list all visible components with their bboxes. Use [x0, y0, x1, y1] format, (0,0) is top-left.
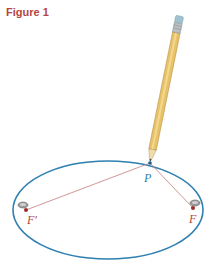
- label-focus-left: F′: [26, 213, 37, 227]
- ellipse-curve: [13, 161, 203, 259]
- string-to-right-focus: [150, 163, 193, 208]
- ellipse-diagram: P F′ F: [0, 0, 217, 272]
- label-point-p: P: [143, 171, 152, 185]
- string-to-left-focus: [26, 163, 150, 210]
- left-pin-icon: [18, 202, 28, 212]
- label-focus-right: F: [188, 212, 197, 226]
- pencil-icon: [146, 15, 184, 163]
- point-p-marker: [148, 161, 152, 165]
- right-pin-icon: [190, 200, 200, 210]
